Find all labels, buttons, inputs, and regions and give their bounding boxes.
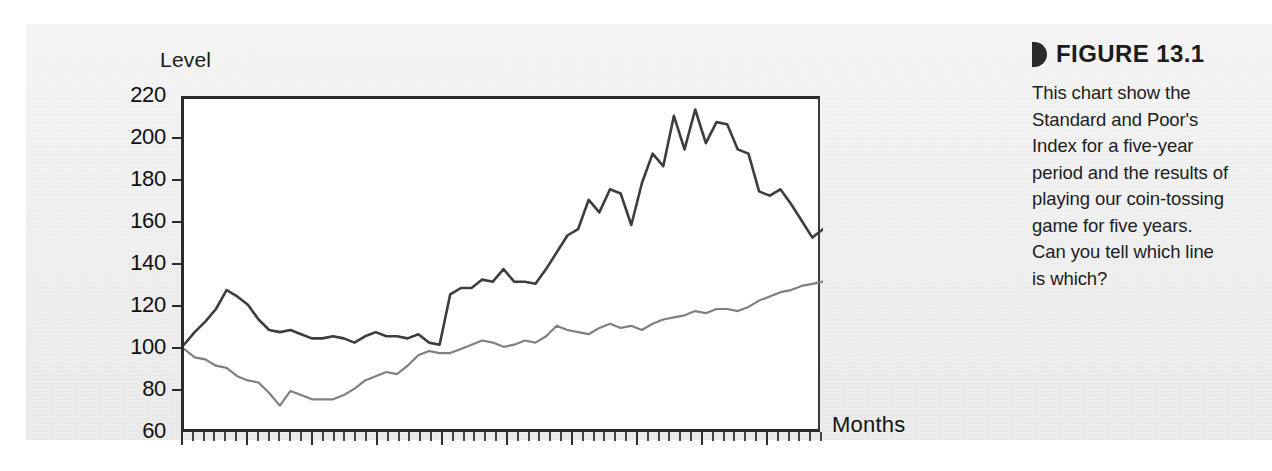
figure-caption-text: This chart show the Standard and Poor's … bbox=[1032, 80, 1228, 292]
x-tick-mark bbox=[690, 432, 692, 441]
x-tick-mark bbox=[668, 432, 670, 441]
x-tick-mark bbox=[441, 432, 443, 445]
x-tick-mark bbox=[593, 432, 595, 441]
x-tick-mark bbox=[809, 432, 811, 441]
x-tick-mark bbox=[452, 432, 454, 441]
y-tick-label: 220 bbox=[100, 82, 166, 108]
x-tick-mark bbox=[224, 432, 226, 441]
series-lines bbox=[184, 99, 823, 435]
x-tick-mark bbox=[463, 432, 465, 441]
x-tick-mark bbox=[333, 432, 335, 441]
x-tick-mark bbox=[246, 432, 248, 445]
x-axis-title: Months bbox=[832, 412, 905, 438]
y-tick-label: 80 bbox=[100, 376, 166, 402]
x-tick-mark bbox=[213, 432, 215, 441]
x-tick-mark bbox=[733, 432, 735, 441]
x-tick-mark bbox=[506, 432, 508, 445]
series-gray-line bbox=[184, 282, 823, 406]
y-tick-label: 60 bbox=[100, 418, 166, 444]
x-tick-mark bbox=[549, 432, 551, 441]
x-tick-mark bbox=[203, 432, 205, 441]
x-tick-mark bbox=[398, 432, 400, 441]
y-tick-label: 200 bbox=[100, 124, 166, 150]
x-tick-mark bbox=[560, 432, 562, 441]
y-axis-title: Level bbox=[160, 48, 211, 72]
x-tick-mark bbox=[268, 432, 270, 441]
figure-caption-block: FIGURE 13.1 This chart show the Standard… bbox=[1032, 40, 1228, 292]
x-axis-ticks bbox=[181, 432, 820, 448]
x-tick-mark bbox=[354, 432, 356, 441]
y-tick-label: 100 bbox=[100, 334, 166, 360]
x-tick-mark bbox=[582, 432, 584, 441]
x-tick-mark bbox=[517, 432, 519, 441]
y-tick-label: 160 bbox=[100, 208, 166, 234]
y-tick-label: 120 bbox=[100, 292, 166, 318]
x-tick-mark bbox=[647, 432, 649, 441]
x-tick-mark bbox=[192, 432, 194, 441]
x-tick-mark bbox=[484, 432, 486, 441]
x-tick-mark bbox=[322, 432, 324, 441]
line-chart: Level Months 6080100120140160180200220 bbox=[0, 0, 1000, 471]
x-tick-mark bbox=[777, 432, 779, 441]
x-tick-mark bbox=[788, 432, 790, 441]
x-tick-mark bbox=[712, 432, 714, 441]
x-tick-mark bbox=[376, 432, 378, 445]
y-tick-label: 180 bbox=[100, 166, 166, 192]
x-tick-mark bbox=[257, 432, 259, 441]
x-tick-mark bbox=[278, 432, 280, 441]
y-tick-label: 140 bbox=[100, 250, 166, 276]
x-tick-mark bbox=[300, 432, 302, 441]
x-tick-mark bbox=[181, 432, 183, 445]
x-tick-mark bbox=[528, 432, 530, 441]
x-tick-mark bbox=[419, 432, 421, 441]
x-tick-mark bbox=[636, 432, 638, 445]
x-tick-mark bbox=[744, 432, 746, 441]
figure-heading: FIGURE 13.1 bbox=[1032, 40, 1228, 68]
x-tick-mark bbox=[571, 432, 573, 445]
x-tick-mark bbox=[495, 432, 497, 441]
x-tick-mark bbox=[755, 432, 757, 441]
x-tick-mark bbox=[311, 432, 313, 445]
x-tick-mark bbox=[798, 432, 800, 441]
x-tick-mark bbox=[603, 432, 605, 441]
x-tick-mark bbox=[820, 432, 822, 441]
x-tick-mark bbox=[473, 432, 475, 441]
x-tick-mark bbox=[289, 432, 291, 441]
x-tick-mark bbox=[408, 432, 410, 441]
x-tick-mark bbox=[723, 432, 725, 441]
x-tick-mark bbox=[701, 432, 703, 445]
figure-page: Level Months 6080100120140160180200220 F… bbox=[0, 0, 1272, 471]
x-tick-mark bbox=[343, 432, 345, 441]
half-disc-marker-icon bbox=[1032, 42, 1047, 67]
x-tick-mark bbox=[365, 432, 367, 441]
x-tick-mark bbox=[625, 432, 627, 441]
plot-area bbox=[181, 96, 820, 432]
x-tick-mark bbox=[538, 432, 540, 441]
x-tick-mark bbox=[766, 432, 768, 445]
x-tick-mark bbox=[614, 432, 616, 441]
x-tick-mark bbox=[235, 432, 237, 441]
x-tick-mark bbox=[430, 432, 432, 441]
x-tick-mark bbox=[387, 432, 389, 441]
figure-number-label: FIGURE 13.1 bbox=[1056, 40, 1204, 68]
x-tick-mark bbox=[658, 432, 660, 441]
x-tick-mark bbox=[679, 432, 681, 441]
